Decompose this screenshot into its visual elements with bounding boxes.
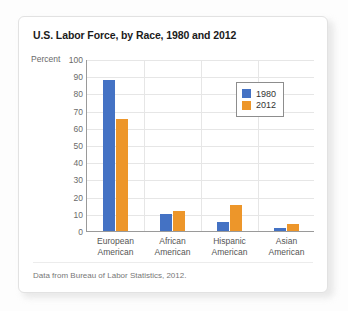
source-note: Data from Bureau of Labor Statistics, 20… (33, 271, 186, 280)
y-axis-tick-label: 90 (74, 72, 83, 82)
x-axis-tick-label: AsianAmerican (269, 236, 305, 257)
bar-1980 (217, 222, 229, 231)
y-axis-tick-label: 70 (74, 107, 83, 117)
bar-1980 (103, 80, 115, 231)
chart-legend: 19802012 (236, 82, 284, 117)
y-axis-title: Percent (31, 54, 60, 64)
y-axis-tick-label: 0 (78, 227, 83, 237)
bar-group: EuropeanAmerican (87, 60, 144, 231)
legend-label: 1980 (256, 89, 276, 99)
bar-group: AfricanAmerican (144, 60, 201, 231)
bar-2012 (116, 119, 128, 231)
bar-2012 (230, 205, 242, 231)
bar-2012 (173, 211, 185, 231)
legend-swatch (242, 101, 251, 110)
y-axis-tick-label: 20 (74, 193, 83, 203)
y-axis-tick-label: 30 (74, 175, 83, 185)
y-axis-tick-label: 50 (74, 141, 83, 151)
chart-card: U.S. Labor Force, by Race, 1980 and 2012… (18, 16, 328, 293)
footer-divider (33, 262, 313, 263)
legend-swatch (242, 89, 251, 98)
x-axis-tick-label: EuropeanAmerican (97, 236, 134, 257)
y-axis-tick-label: 10 (74, 210, 83, 220)
x-axis-tick-label: HispanicAmerican (212, 236, 248, 257)
y-axis-tick-label: 100 (69, 55, 83, 65)
legend-item: 2012 (242, 100, 276, 110)
y-axis-tick-label: 80 (74, 89, 83, 99)
legend-label: 2012 (256, 100, 276, 110)
x-axis-tick-label: AfricanAmerican (155, 236, 191, 257)
bar-1980 (274, 228, 286, 231)
page-title: U.S. Labor Force, by Race, 1980 and 2012 (33, 29, 236, 41)
bar-1980 (160, 214, 172, 231)
screenshot-root: U.S. Labor Force, by Race, 1980 and 2012… (0, 0, 348, 311)
bar-2012 (287, 224, 299, 231)
plot-area: 1009080706050403020100 EuropeanAmericanA… (86, 60, 314, 232)
gridline (87, 232, 314, 233)
y-axis-tick-label: 40 (74, 158, 83, 168)
y-axis-tick-label: 60 (74, 124, 83, 134)
legend-item: 1980 (242, 89, 276, 99)
